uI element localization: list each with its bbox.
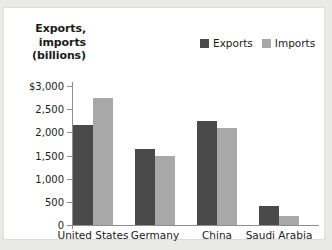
chart-legend: Exports Imports bbox=[200, 37, 315, 49]
y-axis-tick-label-2000: 2,000 bbox=[6, 127, 64, 138]
bar-saudi-arabia-exports bbox=[259, 206, 279, 225]
chart-panel: Exports, imports (billions) Exports Impo… bbox=[3, 7, 325, 240]
y-axis-tick-label-500: 500 bbox=[6, 196, 64, 207]
legend-swatch-exports bbox=[200, 39, 209, 48]
x-axis-category-label-united-states: United States bbox=[57, 229, 128, 241]
bar-united-states-exports bbox=[73, 125, 93, 225]
bar-germany-imports bbox=[155, 156, 175, 225]
legend-label-exports: Exports bbox=[213, 37, 253, 49]
y-axis-tick-label-0: 0 bbox=[6, 220, 64, 231]
bar-china-exports bbox=[197, 121, 217, 225]
bar-germany-exports bbox=[135, 149, 155, 225]
y-axis-tick-label-1000: 1,000 bbox=[6, 173, 64, 184]
bar-united-states-imports bbox=[93, 98, 113, 225]
legend-label-imports: Imports bbox=[275, 37, 315, 49]
legend-item-imports: Imports bbox=[262, 37, 315, 49]
y-axis-tick-3000 bbox=[67, 86, 73, 87]
y-axis-tick-label-2500: 2,500 bbox=[6, 104, 64, 115]
legend-item-exports: Exports bbox=[200, 37, 253, 49]
x-axis-category-label-saudi-arabia: Saudi Arabia bbox=[246, 229, 313, 241]
y-axis-tick-label-1500: 1,500 bbox=[6, 150, 64, 161]
y-axis-tick-labels: 05001,0001,5002,0002,500$3,000 bbox=[4, 8, 64, 250]
x-axis-category-label-china: China bbox=[202, 229, 232, 241]
y-axis-tick-2500 bbox=[67, 109, 73, 110]
legend-swatch-imports bbox=[262, 39, 271, 48]
x-axis-category-label-germany: Germany bbox=[131, 229, 179, 241]
y-axis-tick-label-3000: $3,000 bbox=[6, 81, 64, 92]
y-axis-tick-0 bbox=[67, 225, 73, 226]
x-axis-line bbox=[72, 225, 319, 226]
bar-china-imports bbox=[217, 128, 237, 225]
bar-saudi-arabia-imports bbox=[279, 216, 299, 225]
chart-figure: Exports, imports (billions) Exports Impo… bbox=[0, 0, 332, 250]
